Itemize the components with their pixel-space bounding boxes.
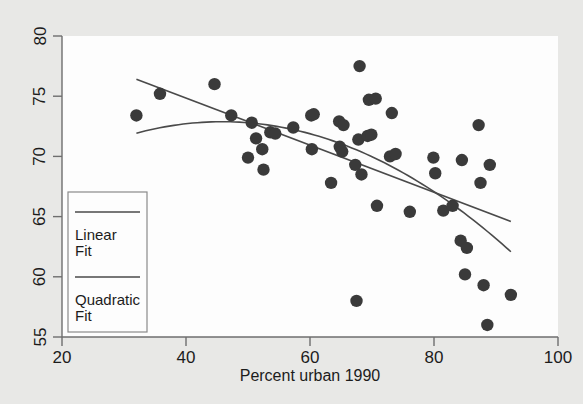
scatter-plot: 556065707580 20406080100 Linear Fit Quad… [0,0,583,404]
x-tick-label: 60 [301,348,320,367]
scatter-point [427,151,439,163]
scatter-point [225,109,237,121]
scatter-point [477,279,489,291]
x-tick-label: 100 [544,348,572,367]
scatter-point [472,119,484,131]
legend-label-quadratic-line2: Fit [75,307,92,324]
scatter-point [336,145,348,157]
scatter-point [446,200,458,212]
scatter-point [257,163,269,175]
chart-legend: Linear Fit Quadratic Fit [68,192,147,332]
x-tick-label: 80 [425,348,444,367]
scatter-point [269,127,281,139]
y-tick-label: 55 [31,328,50,347]
scatter-point [250,132,262,144]
y-tick-label: 75 [31,87,50,106]
scatter-point [461,242,473,254]
scatter-point [308,108,320,120]
y-tick-label: 65 [31,207,50,226]
legend-label-linear-line1: Linear [75,226,117,243]
scatter-point [404,206,416,218]
x-axis-title: Percent urban 1990 [240,367,381,384]
scatter-point [370,92,382,104]
y-tick-label: 60 [31,267,50,286]
scatter-point [350,295,362,307]
scatter-point [429,167,441,179]
scatter-point [130,109,142,121]
scatter-point [365,129,377,141]
scatter-point [353,60,365,72]
scatter-point [337,119,349,131]
scatter-point [474,177,486,189]
scatter-point [208,78,220,90]
scatter-point [484,159,496,171]
scatter-point [456,154,468,166]
scatter-point [355,168,367,180]
scatter-point [371,200,383,212]
x-tick-label: 40 [177,348,196,367]
legend-label-quadratic-line1: Quadratic [75,291,141,308]
legend-label-linear-line2: Fit [75,242,92,259]
scatter-point [306,143,318,155]
scatter-point [325,177,337,189]
scatter-point [386,107,398,119]
scatter-point [389,148,401,160]
scatter-point [246,116,258,128]
scatter-point [256,143,268,155]
scatter-point [242,151,254,163]
x-tick-label: 20 [53,348,72,367]
scatter-point [287,121,299,133]
scatter-point [505,289,517,301]
chart-figure: 556065707580 20406080100 Linear Fit Quad… [0,0,583,404]
y-tick-label: 70 [31,147,50,166]
scatter-point [481,319,493,331]
y-tick-label: 80 [31,27,50,46]
scatter-point [154,88,166,100]
scatter-point [459,268,471,280]
